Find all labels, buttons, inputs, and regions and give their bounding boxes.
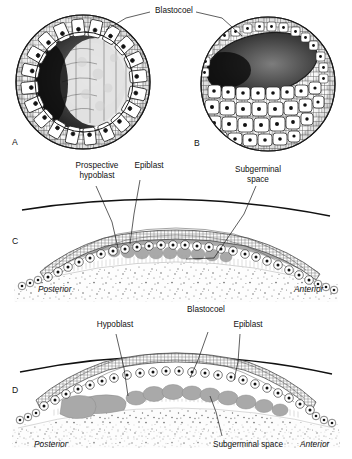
panel-letter-c: C (12, 236, 18, 246)
panel-a-artwork (12, 15, 150, 149)
label-blastocoel-top: Blastocoel (155, 6, 193, 16)
label-blastocoel-d: Blastocoel (187, 305, 225, 315)
label-anterior-d: Anterior (300, 440, 329, 450)
panel-letter-a: A (12, 137, 18, 147)
panel-letter-b: B (194, 138, 200, 148)
vitelline-membrane-c (22, 199, 330, 216)
panel-letter-d: D (12, 385, 18, 395)
label-subgerminal-space-d: Subgerminal space (213, 440, 283, 450)
panel-d-artwork (12, 332, 340, 448)
label-posterior-c: Posterior (38, 285, 72, 295)
label-hypoblast-d: Hypoblast (97, 320, 133, 330)
label-anterior-c: Anterior (294, 285, 323, 295)
label-posterior-d: Posterior (34, 440, 68, 450)
label-epiblast-d: Epiblast (233, 320, 262, 330)
panel-b-artwork (195, 17, 335, 151)
figure-container: Blastocoel A B Prospective hypoblast Epi… (0, 0, 352, 459)
figure-artwork (0, 0, 352, 459)
label-prospective-hypoblast: Prospective hypoblast (76, 161, 119, 180)
label-subgerminal-space-c: Subgerminal space (235, 165, 281, 184)
label-epiblast-c: Epiblast (134, 161, 163, 171)
